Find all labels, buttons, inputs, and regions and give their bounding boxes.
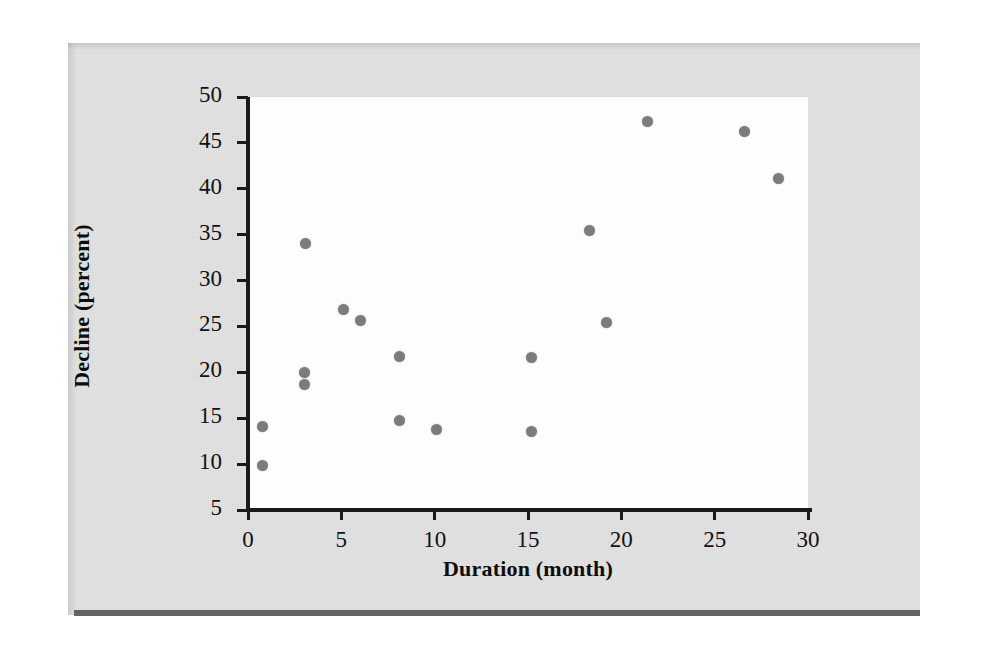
y-tick-25 <box>237 325 248 328</box>
data-point <box>431 424 442 435</box>
scatter-plot-figure: 5101520253035404550 051015202530 Duratio… <box>0 0 988 666</box>
x-tick-25 <box>713 509 716 520</box>
y-axis-title: Decline (percent) <box>69 156 95 456</box>
y-tick-50 <box>237 96 248 99</box>
x-axis-title: Duration (month) <box>248 556 808 582</box>
data-point <box>299 379 310 390</box>
y-tick-label-10: 10 <box>188 449 222 475</box>
y-tick-label-20: 20 <box>188 357 222 383</box>
data-point <box>773 173 784 184</box>
x-tick-label-10: 10 <box>412 527 458 553</box>
y-tick-label-40: 40 <box>188 174 222 200</box>
y-tick-45 <box>237 141 248 144</box>
plot-area <box>248 97 808 510</box>
data-point <box>299 367 310 378</box>
y-axis-line <box>246 97 250 512</box>
y-tick-label-45: 45 <box>188 128 222 154</box>
x-tick-label-25: 25 <box>692 527 738 553</box>
y-tick-30 <box>237 279 248 282</box>
y-tick-label-5: 5 <box>188 495 222 521</box>
y-tick-40 <box>237 187 248 190</box>
x-tick-label-15: 15 <box>505 527 551 553</box>
data-point <box>355 315 366 326</box>
x-tick-20 <box>620 509 623 520</box>
x-tick-10 <box>433 509 436 520</box>
y-tick-label-35: 35 <box>188 220 222 246</box>
y-tick-label-30: 30 <box>188 266 222 292</box>
x-tick-0 <box>247 509 250 520</box>
x-tick-label-5: 5 <box>318 527 364 553</box>
x-tick-label-30: 30 <box>785 527 831 553</box>
y-tick-35 <box>237 233 248 236</box>
y-tick-10 <box>237 463 248 466</box>
data-point <box>394 415 405 426</box>
y-tick-label-25: 25 <box>188 311 222 337</box>
y-tick-20 <box>237 371 248 374</box>
x-tick-5 <box>340 509 343 520</box>
y-tick-label-50: 50 <box>188 82 222 108</box>
data-point <box>394 351 405 362</box>
data-point <box>257 460 268 471</box>
x-tick-label-20: 20 <box>598 527 644 553</box>
x-tick-label-0: 0 <box>225 527 271 553</box>
x-tick-30 <box>807 509 810 520</box>
y-tick-label-15: 15 <box>188 403 222 429</box>
x-tick-15 <box>527 509 530 520</box>
y-tick-15 <box>237 417 248 420</box>
data-point <box>526 426 537 437</box>
